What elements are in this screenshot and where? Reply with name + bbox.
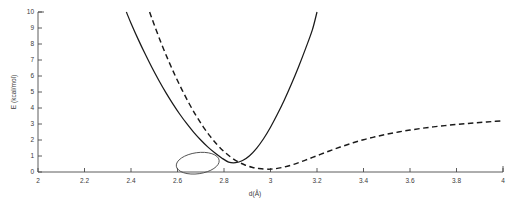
harmonic-potential-curve <box>126 12 317 163</box>
x-tick-label: 2.8 <box>219 177 228 184</box>
y-tick-label: 3 <box>30 120 34 127</box>
x-tick-label: 3 <box>269 177 273 184</box>
y-tick-label: 9 <box>30 24 34 31</box>
x-tick-label: 3.2 <box>312 177 321 184</box>
y-tick-label: 2 <box>30 136 34 143</box>
y-tick-label: 6 <box>30 72 34 79</box>
potential-energy-chart: 22.22.42.62.833.23.43.63.84 012345678910… <box>0 0 513 204</box>
anharmonic-potential-curve <box>150 12 503 169</box>
y-tick-label: 0 <box>30 168 34 175</box>
x-tick-label: 2.4 <box>126 177 135 184</box>
x-axis-title: d(Å) <box>249 189 261 198</box>
x-tick-label: 3.8 <box>452 177 461 184</box>
y-tick-label: 1 <box>30 152 34 159</box>
x-tick-label: 2.2 <box>80 177 89 184</box>
y-tick-label: 5 <box>30 88 34 95</box>
axis-frame <box>38 12 503 172</box>
x-tick-label: 2.6 <box>173 177 182 184</box>
y-axis-title: E (kcal/mol) <box>10 75 18 109</box>
x-tick-label-group: 22.22.42.62.833.23.43.63.84 <box>36 177 505 184</box>
y-tick-label: 10 <box>27 8 35 15</box>
x-tick-label: 2 <box>36 177 40 184</box>
chart-canvas: 22.22.42.62.833.23.43.63.84 012345678910… <box>0 0 513 204</box>
x-tick-label: 3.4 <box>359 177 368 184</box>
y-tick-label: 7 <box>30 56 34 63</box>
y-axis-ticks <box>38 12 42 172</box>
y-tick-label: 4 <box>30 104 34 111</box>
crossing-highlight-ellipse <box>175 150 221 177</box>
x-tick-label: 4 <box>501 177 505 184</box>
y-tick-label: 8 <box>30 40 34 47</box>
y-tick-label-group: 012345678910 <box>27 8 35 175</box>
x-tick-label: 3.6 <box>405 177 414 184</box>
